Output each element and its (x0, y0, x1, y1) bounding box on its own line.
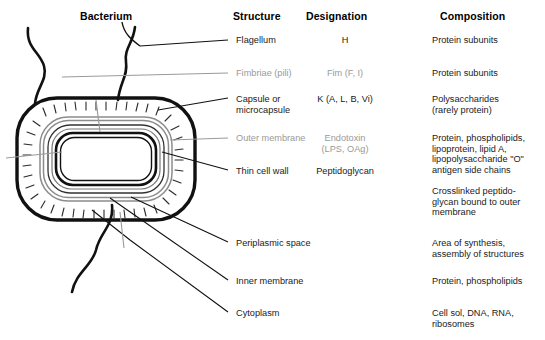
structure-capsule: Capsule or microcapsule (236, 94, 290, 115)
composition-fimbriae: Protein subunits (432, 68, 498, 79)
designation-capsule: K (A, L, B, Vi) (317, 94, 372, 105)
tick-upper (96, 100, 100, 132)
header-structure: Structure (233, 10, 281, 22)
composition-periplasmic-space: Area of synthesis, assembly of structure… (432, 238, 524, 259)
composition-outer-membrane: Protein, phospholipids, lipoprotein, lip… (432, 133, 525, 175)
structure-cytoplasm: Cytoplasm (236, 308, 279, 319)
header-composition: Composition (440, 10, 505, 22)
header-designation: Designation (306, 10, 367, 22)
composition-flagellum: Protein subunits (432, 35, 498, 46)
leader-fimbriae (62, 73, 228, 77)
designation-flagellum: H (342, 35, 349, 46)
composition-capsule: Polysaccharides (rarely protein) (432, 94, 499, 115)
composition-thin-cell-wall: Crosslinked peptido- glycan bound to out… (432, 186, 520, 218)
designation-fimbriae: Fim (F, I) (327, 68, 363, 79)
flagellum-bottom (72, 205, 112, 292)
structure-flagellum: Flagellum (236, 35, 276, 46)
designation-outer-membrane: Endotoxin (LPS, OAg) (322, 133, 369, 154)
leader-flagellum (140, 40, 228, 46)
structure-fimbriae: Fimbriae (pili) (236, 68, 292, 79)
flagellum-left (28, 28, 45, 104)
structure-outer-membrane: Outer membrane (236, 133, 305, 144)
composition-cytoplasm: Cell sol, DNA, RNA, ribosomes (432, 308, 514, 329)
leader-envelope-left (6, 152, 62, 158)
composition-inner-membrane: Protein, phospholipids (432, 276, 522, 287)
tick-lower (120, 212, 124, 248)
figure-canvas: Bacterium Structure Designation Composit… (0, 0, 545, 340)
designation-thin-cell-wall: Peptidoglycan (316, 166, 374, 177)
leader-cytoplasm (92, 210, 228, 312)
cytoplasm-area (61, 138, 152, 181)
header-bacterium: Bacterium (80, 10, 132, 22)
structure-thin-cell-wall: Thin cell wall (236, 166, 289, 177)
structure-periplasmic-space: Periplasmic space (236, 238, 311, 249)
structure-inner-membrane: Inner membrane (236, 276, 303, 287)
flagellum-top-right (118, 27, 135, 100)
leader-inner-membrane (110, 198, 228, 280)
